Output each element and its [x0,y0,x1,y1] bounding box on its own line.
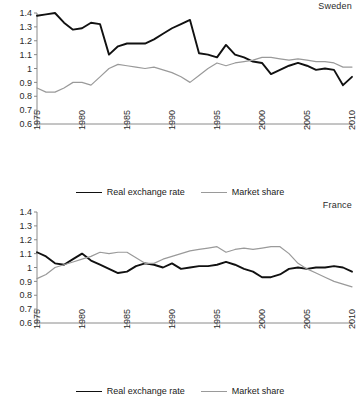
x-axis-tick-label: 2000 [257,309,267,329]
x-axis-tick-label: 1995 [212,110,222,130]
legend-entry-market-share: Market share [201,187,285,197]
y-axis-tick-label: 1.3 [19,22,32,32]
figure-two-panel-line-charts: Sweden 1.41.31.21.110.90.80.70.619751980… [0,0,360,398]
x-axis-tick-label: 1980 [77,309,87,329]
legend-france: Real exchange rate Market share [0,386,360,396]
y-axis-tick-label: 0.8 [19,91,32,101]
y-axis-tick-label: 1.1 [19,50,32,60]
x-axis-tick-label: 2010 [347,309,357,329]
y-axis-tick-label: 0.9 [19,78,32,88]
x-axis-tick-label: 1985 [122,110,132,130]
plot-area-sweden: 1.41.31.21.110.90.80.70.6197519801985199… [0,0,360,199]
plot-area-france: 1.41.31.21.110.90.80.70.6197519801985199… [0,199,360,398]
x-axis-tick-label: 1985 [122,309,132,329]
data-series-line [37,252,352,277]
x-axis-tick-label: 2005 [302,309,312,329]
line-swatch-gray-icon [201,391,227,392]
x-axis-tick-label: 2005 [302,110,312,130]
x-axis-tick-label: 2000 [257,110,267,130]
legend-entry-market-share: Market share [201,386,285,396]
chart-panel-france: France 1.41.31.21.110.90.80.70.619751980… [0,199,360,398]
legend-sweden: Real exchange rate Market share [0,187,360,197]
x-axis-tick-label: 1975 [32,110,42,130]
line-swatch-black-icon [76,391,102,392]
y-axis-tick-label: 0.7 [19,105,32,115]
y-axis-tick-label: 1.4 [19,8,32,18]
data-series-line [37,13,352,85]
line-swatch-black-icon [76,192,102,193]
chart-panel-sweden: Sweden 1.41.31.21.110.90.80.70.619751980… [0,0,360,199]
line-swatch-gray-icon [201,192,227,193]
legend-label-market-share: Market share [232,386,285,396]
legend-entry-real-exchange-rate: Real exchange rate [76,386,185,396]
y-axis-tick-label: 1 [27,64,32,74]
y-axis-tick-label: 1.4 [19,207,32,217]
y-axis-tick-label: 0.6 [19,119,32,129]
y-axis-tick-label: 0.6 [19,318,32,328]
legend-label-market-share: Market share [232,187,285,197]
y-axis-tick-label: 1.3 [19,221,32,231]
x-axis-tick-label: 1995 [212,309,222,329]
x-axis-tick-label: 2010 [347,110,357,130]
y-axis-tick-label: 1 [27,263,32,273]
x-axis-tick-label: 1975 [32,309,42,329]
x-axis-tick-label: 1990 [167,309,177,329]
legend-label-real-exchange-rate: Real exchange rate [107,187,185,197]
legend-label-real-exchange-rate: Real exchange rate [107,386,185,396]
y-axis-tick-label: 0.7 [19,304,32,314]
y-axis-tick-label: 0.9 [19,277,32,287]
data-series-line [37,57,352,92]
x-axis-tick-label: 1980 [77,110,87,130]
y-axis-tick-label: 1.2 [19,36,32,46]
legend-entry-real-exchange-rate: Real exchange rate [76,187,185,197]
y-axis-tick-label: 0.8 [19,290,32,300]
y-axis-tick-label: 1.1 [19,249,32,259]
y-axis-tick-label: 1.2 [19,235,32,245]
x-axis-tick-label: 1990 [167,110,177,130]
